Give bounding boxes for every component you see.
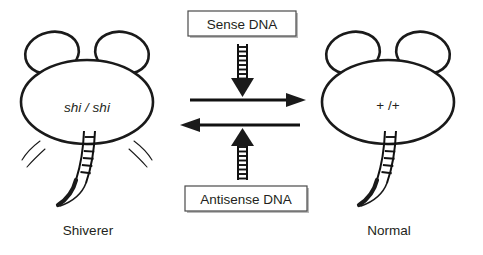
normal-caption: Normal (367, 223, 411, 238)
reverse-arrow-group (180, 118, 300, 132)
antisense-dna-up-arrow (231, 128, 254, 180)
shiver-motion-line-4 (129, 149, 147, 167)
sense-dna-label: Sense DNA (207, 17, 278, 32)
normal-mouse-group: + /+ Normal (322, 27, 454, 238)
shiverer-genotype-label: shi / shi (64, 100, 111, 115)
shiverer-caption: Shiverer (63, 223, 114, 238)
shiverer-mouse-group: shi / shi Shiverer (21, 27, 153, 238)
normal-genotype-label: + /+ (376, 98, 399, 113)
antisense-dna-group: Antisense DNA (185, 186, 309, 213)
forward-arrow-group (190, 93, 306, 107)
antisense-dna-arrowhead (231, 128, 254, 146)
sense-dna-group: Sense DNA (188, 11, 298, 38)
sense-dna-down-arrow (231, 44, 254, 97)
reverse-arrow-head (180, 118, 200, 132)
figure-root: shi / shi Shiverer (0, 0, 483, 255)
sense-dna-arrowhead (231, 78, 254, 97)
mouse-dna-diagram: shi / shi Shiverer (0, 0, 483, 255)
normal-tail-tip (359, 180, 377, 205)
antisense-dna-label: Antisense DNA (200, 192, 292, 207)
shiver-motion-line-2 (27, 149, 45, 167)
shiver-motion-line-3 (134, 141, 152, 160)
forward-arrow-head (286, 93, 306, 107)
shiver-motion-line-1 (22, 141, 40, 160)
shiverer-tail-tip (58, 180, 76, 205)
